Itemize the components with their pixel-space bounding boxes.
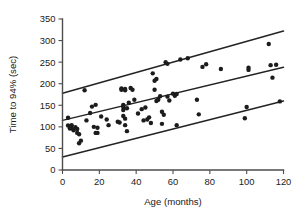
data-point xyxy=(132,97,136,101)
data-point xyxy=(77,132,81,136)
data-point xyxy=(158,94,162,98)
data-point xyxy=(167,98,171,102)
y-tick-label: 0 xyxy=(50,164,55,175)
data-point xyxy=(204,62,208,66)
data-point xyxy=(147,115,151,119)
data-point xyxy=(84,118,88,122)
y-tick-label: 200 xyxy=(40,78,56,89)
data-point xyxy=(270,75,274,79)
y-axis-title: Time to 94% (sec) xyxy=(7,56,18,133)
data-point xyxy=(125,106,129,110)
data-point xyxy=(88,111,92,115)
data-point xyxy=(200,65,204,69)
x-tick-label: 120 xyxy=(276,176,292,187)
data-point xyxy=(246,68,250,72)
data-point xyxy=(79,138,83,142)
data-point xyxy=(117,120,121,124)
data-point xyxy=(66,116,70,120)
data-point xyxy=(95,131,99,135)
data-point xyxy=(244,105,248,109)
x-tick-label: 0 xyxy=(60,176,65,187)
data-point xyxy=(127,100,131,104)
data-point xyxy=(130,88,134,92)
x-tick-label: 60 xyxy=(168,176,178,187)
data-point xyxy=(268,63,272,67)
data-point xyxy=(143,105,147,109)
scatter-plot-figure: 050100150200250300350 020406080100120 Ag… xyxy=(0,0,303,217)
data-point xyxy=(123,87,127,91)
y-tick-label: 350 xyxy=(40,13,56,24)
y-axis-ticks-group: 050100150200250300350 xyxy=(40,13,63,175)
x-tick-label: 40 xyxy=(131,176,141,187)
data-point xyxy=(123,116,127,120)
x-axis-title: Age (months) xyxy=(144,196,202,207)
y-tick-label: 100 xyxy=(40,121,56,132)
data-point xyxy=(123,123,127,127)
data-point xyxy=(174,123,178,127)
data-point xyxy=(136,111,140,115)
data-point xyxy=(162,113,166,117)
data-point xyxy=(154,77,158,81)
data-point xyxy=(149,121,153,125)
data-point xyxy=(178,57,182,61)
plot-canvas: 050100150200250300350 020406080100120 Ag… xyxy=(0,0,303,217)
x-axis-ticks-group: 020406080100120 xyxy=(60,170,291,187)
data-point xyxy=(99,114,103,118)
data-point xyxy=(219,67,223,71)
data-point xyxy=(106,123,110,127)
data-point xyxy=(160,122,164,126)
data-point xyxy=(141,118,145,122)
data-point xyxy=(105,117,109,121)
data-point xyxy=(174,92,178,96)
data-point xyxy=(165,62,169,66)
x-tick-label: 20 xyxy=(94,176,104,187)
data-point xyxy=(121,103,125,107)
upper-band xyxy=(63,31,284,93)
data-point xyxy=(165,94,169,98)
data-point xyxy=(195,97,199,101)
y-tick-label: 250 xyxy=(40,57,56,68)
data-point xyxy=(278,99,282,103)
data-point xyxy=(92,125,96,129)
data-point xyxy=(197,112,201,116)
x-tick-label: 100 xyxy=(239,176,255,187)
data-point xyxy=(125,129,129,133)
data-point xyxy=(82,88,86,92)
data-point xyxy=(151,71,155,75)
data-points-group xyxy=(66,42,282,146)
data-point xyxy=(152,88,156,92)
data-point xyxy=(186,56,190,60)
data-point xyxy=(75,127,79,131)
data-point xyxy=(95,126,99,130)
data-point xyxy=(93,103,97,107)
data-point xyxy=(274,63,278,67)
data-point xyxy=(243,116,247,120)
y-tick-label: 150 xyxy=(40,100,56,111)
data-point xyxy=(267,42,271,46)
x-tick-label: 80 xyxy=(205,176,215,187)
lower-band xyxy=(63,101,284,157)
y-tick-label: 50 xyxy=(45,143,55,154)
y-tick-label: 300 xyxy=(40,35,56,46)
